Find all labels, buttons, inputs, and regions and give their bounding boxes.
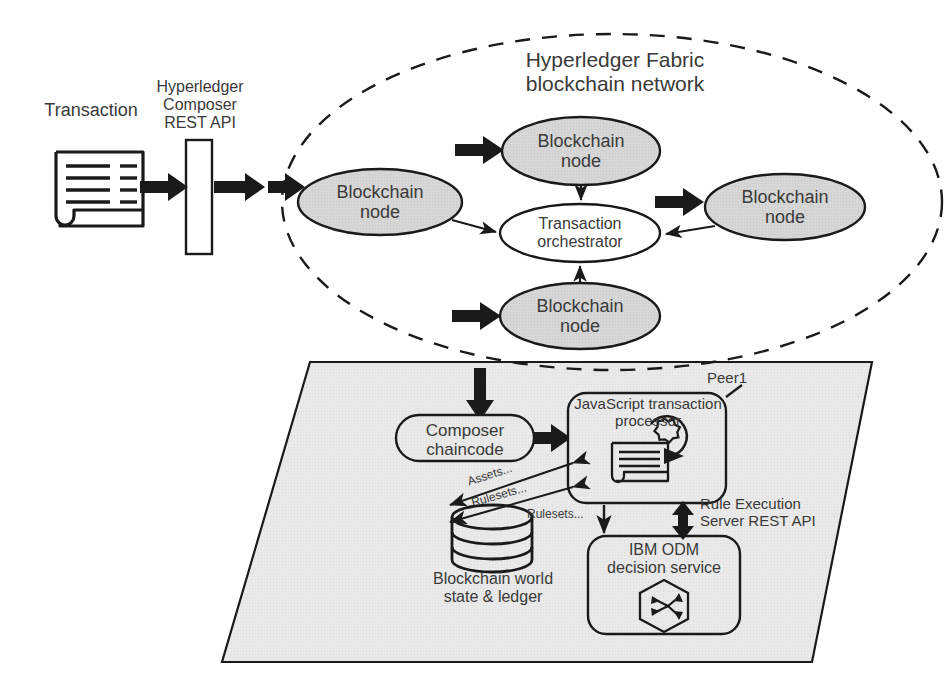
arrow-into-node-bottom (452, 302, 501, 330)
node-right[interactable] (705, 174, 865, 240)
ibm-odm-decision-service-box[interactable] (588, 536, 740, 634)
arrow-into-node-top (455, 136, 504, 164)
node-left[interactable] (298, 169, 462, 235)
architecture-diagram: Transaction Hyperledger Composer REST AP… (0, 0, 950, 690)
arrow-api-to-network (214, 173, 265, 201)
composer-rest-api-bar (186, 140, 212, 254)
link-node-left-orchestrator (452, 220, 496, 232)
composer-chaincode-box[interactable] (396, 415, 534, 461)
arrow-transaction-to-api (140, 173, 188, 201)
arrow-into-node-right (655, 188, 704, 216)
peer-plane (222, 362, 872, 662)
node-top[interactable] (502, 117, 660, 185)
link-node-right-orchestrator (666, 226, 715, 234)
transaction-orchestrator[interactable] (500, 204, 660, 262)
javascript-transaction-processor-box[interactable] (568, 393, 726, 503)
document-icon (56, 152, 143, 226)
node-bottom[interactable] (500, 283, 660, 349)
diagram-canvas (0, 0, 950, 690)
